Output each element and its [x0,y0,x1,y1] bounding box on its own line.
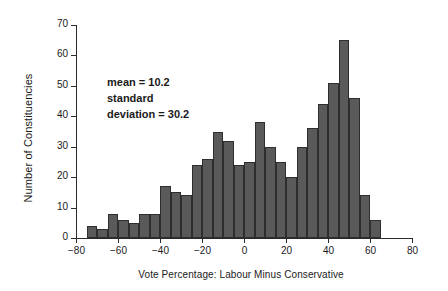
x-tick-label: −40 [152,245,169,256]
y-tick-label: 70 [57,18,68,29]
y-tick-label: 0 [62,231,68,242]
histogram-bar [276,162,287,238]
histogram-bar [213,132,224,239]
histogram-bar [223,141,234,238]
histogram-bar [129,223,140,238]
x-axis-title: Vote Percentage: Labour Minus Conservati… [76,269,406,280]
y-tick-label: 60 [57,48,68,59]
x-tick: 80 [412,238,413,243]
histogram-bar [286,177,297,238]
histogram-bar [181,195,192,238]
histogram-bar [339,40,350,238]
annotation-mean: mean = 10.2 [107,74,189,90]
histogram-bar [97,229,108,238]
histogram-bar [171,192,182,238]
x-tick-label: 60 [365,245,376,256]
histogram-bar [297,147,308,238]
y-axis-title: Number of Constituencies [22,38,34,238]
x-tick-label: 20 [281,245,292,256]
histogram-figure: Number of Constituencies 010203040506070… [0,0,448,291]
histogram-bar [87,226,98,238]
histogram-bar [139,214,150,238]
histogram-bar [265,147,276,238]
y-tick-label: 40 [57,109,68,120]
histogram-bar [255,122,266,238]
plot-area: 010203040506070 −80−60−40−20020406080 [76,25,412,238]
x-tick-label: 0 [242,245,248,256]
histogram-bar [150,214,161,238]
y-tick-label: 10 [57,201,68,212]
histogram-bar [328,83,339,238]
stats-annotation: mean = 10.2 standard deviation = 30.2 [107,74,189,122]
annotation-standard: standard [107,90,189,106]
y-tick-label: 30 [57,140,68,151]
x-tick-label: 80 [407,245,418,256]
histogram-bar [160,186,171,238]
histogram-bar [307,128,318,238]
x-tick-label: −60 [110,245,127,256]
histogram-bar [360,195,371,238]
histogram-bar [318,104,329,238]
x-tick-label: 40 [323,245,334,256]
histogram-bar [244,162,255,238]
histogram-bar [202,159,213,238]
histogram-bar [118,220,129,238]
x-tick-label: −20 [194,245,211,256]
x-axis-line [76,238,412,239]
annotation-deviation: deviation = 30.2 [107,106,189,122]
histogram-bar [108,214,119,238]
x-tick-label: −80 [68,245,85,256]
histogram-bar [192,165,203,238]
histogram-bar [234,165,245,238]
y-axis-line [76,25,77,238]
histogram-bar [349,98,360,238]
histogram-bar [370,220,381,238]
y-tick-label: 50 [57,79,68,90]
y-tick-label: 20 [57,170,68,181]
